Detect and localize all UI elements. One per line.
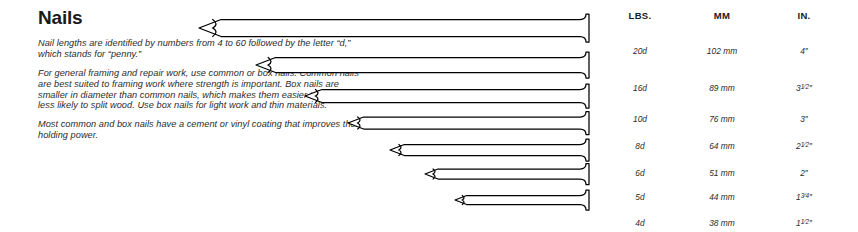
table-cell-mm: 89 mm bbox=[709, 83, 735, 93]
nail-illustrations-svg bbox=[0, 0, 600, 232]
table-cell-in: 21⁄2″ bbox=[796, 141, 812, 151]
table-cell-mm: 64 mm bbox=[709, 141, 735, 151]
table-cell-in: 13⁄4″ bbox=[796, 192, 812, 202]
table-cell-lbs: 5d bbox=[635, 192, 644, 202]
table-row: 8d64 mm21⁄2″ bbox=[600, 141, 858, 153]
table-row: 6d51 mm2″ bbox=[600, 168, 858, 180]
nail-6d bbox=[390, 139, 589, 161]
table-cell-in: 31⁄2″ bbox=[796, 83, 812, 93]
nails-reference-page: Nails Nail lengths are identified by num… bbox=[0, 0, 858, 232]
table-cell-mm: 38 mm bbox=[709, 218, 735, 228]
column-header-in: IN. bbox=[797, 10, 810, 21]
nail-20d bbox=[199, 14, 589, 42]
table-cell-in: 11⁄2″ bbox=[796, 218, 812, 228]
nail-16d bbox=[256, 52, 589, 78]
table-cell-lbs: 6d bbox=[635, 168, 644, 178]
nail-size-diagram bbox=[0, 0, 600, 232]
table-row: 16d89 mm31⁄2″ bbox=[600, 83, 858, 95]
table-cell-mm: 76 mm bbox=[709, 114, 735, 124]
table-cell-lbs: 8d bbox=[635, 141, 644, 151]
table-cell-lbs: 16d bbox=[633, 83, 647, 93]
column-header-lbs: LBS. bbox=[629, 10, 652, 21]
nail-spec-table: LBS. MM IN. 20d102 mm4″16d89 mm31⁄2″10d7… bbox=[600, 0, 858, 232]
table-cell-lbs: 20d bbox=[633, 46, 647, 56]
table-row: 10d76 mm3″ bbox=[600, 114, 858, 126]
table-cell-in: 3″ bbox=[800, 114, 808, 124]
table-cell-mm: 51 mm bbox=[709, 168, 735, 178]
table-header-row: LBS. MM IN. bbox=[600, 10, 858, 24]
table-cell-in: 2″ bbox=[800, 168, 808, 178]
table-cell-lbs: 4d bbox=[635, 218, 644, 228]
nail-4d bbox=[455, 190, 589, 210]
table-cell-mm: 44 mm bbox=[709, 192, 735, 202]
nail-8d bbox=[348, 112, 589, 135]
table-row: 5d44 mm13⁄4″ bbox=[600, 192, 858, 204]
nail-10d bbox=[305, 84, 589, 108]
table-cell-mm: 102 mm bbox=[707, 46, 737, 56]
table-cell-in: 4″ bbox=[800, 46, 808, 56]
column-header-mm: MM bbox=[714, 10, 730, 21]
table-row: 4d38 mm11⁄2″ bbox=[600, 218, 858, 230]
table-cell-lbs: 10d bbox=[633, 114, 647, 124]
nail-5d bbox=[425, 164, 589, 185]
table-row: 20d102 mm4″ bbox=[600, 46, 858, 58]
